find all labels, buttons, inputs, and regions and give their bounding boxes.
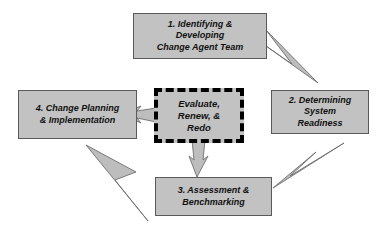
arrow-center-to-3	[189, 140, 208, 177]
process-node-step-2[interactable]: 2. Determining System Readiness	[271, 90, 369, 134]
process-node-step-1[interactable]: 1. Identifying & Developing Change Agent…	[133, 13, 267, 59]
process-node-step-1-label: 1. Identifying & Developing Change Agent…	[154, 19, 246, 54]
arrow-1-to-2	[266, 30, 318, 83]
process-node-step-3-label: 3. Assessment & Benchmarking	[175, 185, 253, 208]
process-node-step-4-label: 4. Change Planning & Implementation	[33, 103, 123, 126]
arrow-2-to-3	[273, 143, 344, 188]
arrow-3-to-4	[86, 145, 148, 221]
process-cycle-diagram: 1. Identifying & Developing Change Agent…	[0, 0, 383, 234]
process-node-step-4[interactable]: 4. Change Planning & Implementation	[18, 90, 137, 139]
process-node-step-3[interactable]: 3. Assessment & Benchmarking	[155, 177, 272, 216]
process-node-center[interactable]: Evaluate, Renew, & Redo	[154, 88, 244, 143]
process-node-center-label: Evaluate, Renew, & Redo	[175, 98, 223, 134]
process-node-step-2-label: 2. Determining System Readiness	[286, 95, 355, 130]
